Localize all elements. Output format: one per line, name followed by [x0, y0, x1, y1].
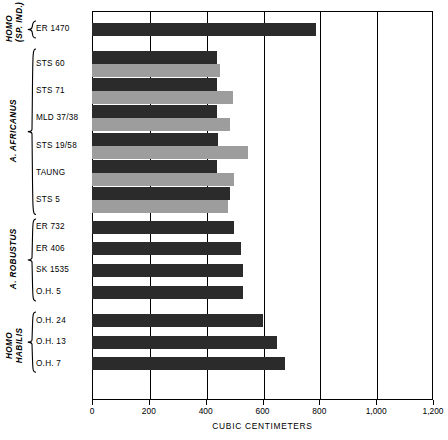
- x-tick-label: 400: [199, 406, 213, 416]
- specimen-label: ER 1470: [36, 24, 70, 33]
- group-name: A. ROBUSTUS: [9, 216, 19, 300]
- x-tick-label: 600: [256, 406, 270, 416]
- x-tick: [433, 400, 434, 405]
- x-tick-label: 1,200: [423, 406, 444, 416]
- specimen-label: O.H. 5: [36, 287, 61, 296]
- specimen-label: STS 5: [36, 195, 60, 204]
- group-brace: [27, 48, 37, 215]
- x-tick-label: 0: [90, 406, 95, 416]
- x-tick: [206, 400, 207, 405]
- specimen-label: O.H. 7: [36, 359, 61, 368]
- bar-gray: [92, 64, 220, 77]
- x-axis-title: CUBIC CENTIMETERS: [92, 421, 433, 431]
- group-name: HOMOHABILIS: [5, 315, 24, 377]
- group-brace: [27, 311, 37, 373]
- specimen-label: STS 71: [36, 86, 65, 95]
- bar-dark: [92, 264, 243, 277]
- bars-container: [92, 11, 433, 400]
- bar-dark: [92, 242, 241, 255]
- bar-gray: [92, 146, 248, 159]
- x-tick: [319, 400, 320, 405]
- specimen-label: MLD 37/38: [36, 113, 78, 122]
- bar-gray: [92, 200, 228, 213]
- specimen-label: STS 19/58: [36, 141, 77, 150]
- specimen-label: ER 732: [36, 222, 65, 231]
- x-tick: [149, 400, 150, 405]
- bar-dark: [92, 51, 217, 64]
- bar-dark: [92, 286, 243, 299]
- bar-gray: [92, 118, 230, 131]
- specimen-label: ER 406: [36, 244, 65, 253]
- x-tick-label: 200: [142, 406, 156, 416]
- specimen-label: STS 60: [36, 59, 65, 68]
- cranial-capacity-bar-chart: ER 1470STS 60STS 71MLD 37/38STS 19/58TAU…: [0, 0, 448, 440]
- x-tick: [376, 400, 377, 405]
- bar-dark: [92, 160, 217, 173]
- group-name: A. AFRICANUS: [9, 47, 19, 214]
- x-tick: [263, 400, 264, 405]
- x-tick-label: 1,000: [366, 406, 387, 416]
- bar-dark: [92, 357, 285, 370]
- bar-dark: [92, 336, 277, 349]
- bar-gray: [92, 173, 234, 186]
- group-brace: [27, 20, 37, 39]
- bar-dark: [92, 105, 217, 118]
- x-tick: [92, 400, 93, 405]
- bar-dark: [92, 221, 234, 234]
- specimen-label: O.H. 24: [36, 316, 66, 325]
- bar-dark: [92, 314, 263, 327]
- bar-dark: [92, 23, 316, 36]
- x-tick-label: 800: [312, 406, 326, 416]
- group-name: HOMO(SP. IND.): [5, 23, 24, 42]
- group-brace: [27, 218, 37, 302]
- bar-gray: [92, 91, 233, 104]
- specimen-label: O.H. 13: [36, 337, 66, 346]
- specimen-label: TAUNG: [36, 168, 65, 177]
- bar-dark: [92, 187, 230, 200]
- bar-dark: [92, 133, 218, 146]
- bar-dark: [92, 78, 217, 91]
- specimen-label: SK 1535: [36, 265, 69, 274]
